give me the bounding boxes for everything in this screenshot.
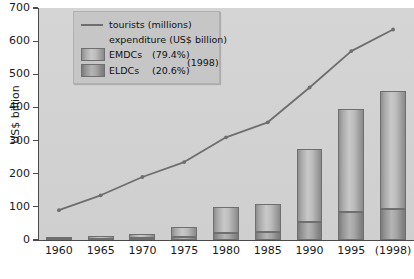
legend-swatch-eldcs	[81, 64, 105, 77]
legend-line-swatch-icon	[81, 24, 103, 26]
chart-legend: tourists (millions) expenditure (US$ bil…	[73, 11, 220, 84]
y-axis-tick-label: 700	[0, 2, 30, 13]
x-axis-tick-label: 1985	[247, 245, 289, 257]
x-axis-tick-label: (1998)	[372, 245, 414, 257]
y-axis-title: US$ billion	[9, 75, 22, 155]
x-axis-tick-label: 1965	[80, 245, 122, 257]
tourists-data-point	[141, 175, 145, 179]
tourism-expenditure-chart: 0100200300400500600700 US$ billion 19601…	[0, 0, 414, 279]
legend-expenditure-title: expenditure (US$ billion)	[109, 34, 227, 46]
tourists-data-point	[99, 193, 103, 197]
x-axis-tick-label: 1960	[38, 245, 80, 257]
legend-pct-eldcs: (20.6%)	[152, 64, 190, 77]
legend-year-note: (1998)	[187, 56, 219, 69]
tourists-data-point	[266, 120, 270, 124]
x-axis-tick-label: 1990	[289, 245, 331, 257]
x-axis-line	[38, 240, 414, 241]
tourists-data-point	[308, 86, 312, 90]
x-axis-tick-label: 1970	[122, 245, 164, 257]
y-axis-tick-label: 0	[0, 234, 30, 245]
legend-swatch-emdcs	[81, 48, 105, 61]
tourists-data-point	[57, 208, 61, 212]
legend-label-eldcs: ELDCs	[109, 64, 139, 77]
y-axis-tick-label: 200	[0, 168, 30, 179]
tourists-data-point	[224, 135, 228, 139]
legend-row-tourists: tourists (millions)	[81, 18, 217, 32]
x-axis-tick-label: 1980	[205, 245, 247, 257]
tourists-data-point	[391, 28, 395, 32]
legend-pct-emdcs: (79.4%)	[152, 48, 190, 61]
tourists-data-point	[182, 160, 186, 164]
tourists-data-point	[349, 49, 353, 53]
y-axis-tick-label: 100	[0, 201, 30, 212]
legend-label-tourists: tourists (millions)	[109, 18, 192, 31]
x-axis-tick-label: 1995	[330, 245, 372, 257]
x-axis-tick-label: 1975	[163, 245, 205, 257]
legend-label-emdcs: EMDCs	[109, 48, 142, 61]
y-axis-tick-label: 600	[0, 35, 30, 46]
